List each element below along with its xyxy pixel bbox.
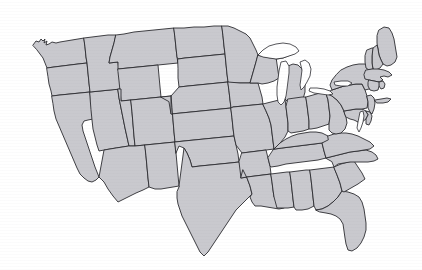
lake-ontario — [334, 81, 352, 86]
state-wyoming — [118, 65, 161, 101]
state-oregon — [47, 63, 90, 96]
state-connecticut — [368, 80, 379, 91]
state-new-mexico — [145, 142, 179, 189]
us-map-figure: United States State Boundary Map Outline… — [0, 0, 422, 270]
state-rhode-island — [379, 81, 385, 89]
state-colorado — [131, 96, 175, 146]
us-map-svg: United States State Boundary Map Outline… — [0, 0, 422, 270]
state-montana — [109, 28, 178, 69]
state-north-dakota — [174, 26, 225, 59]
state-south-dakota — [178, 54, 228, 87]
state-vermont — [365, 48, 373, 70]
state-ohio — [306, 93, 330, 129]
state-indiana — [286, 97, 309, 133]
